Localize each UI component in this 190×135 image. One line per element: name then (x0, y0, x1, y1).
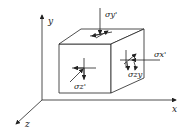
sigma-z-label: σz' (74, 82, 86, 91)
tau-label: σzy (128, 70, 143, 79)
cube (59, 29, 144, 93)
sigma-x-label: σx' (154, 50, 166, 59)
sigma-y-label: σy' (105, 10, 117, 19)
stress-element-diagram: y x z σy' σx' σz' σzy (0, 0, 190, 135)
x-axis-label: x (172, 104, 177, 114)
z-axis-label: z (24, 119, 30, 129)
y-axis-label: y (47, 16, 54, 26)
